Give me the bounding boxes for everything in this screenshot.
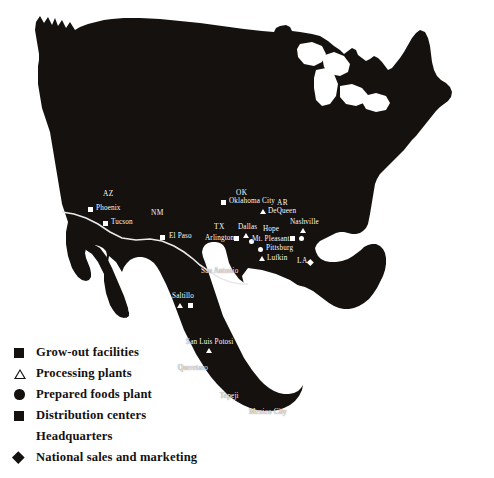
marker-tepeji-triangle[interactable] xyxy=(211,394,217,399)
city-label-mt-pleasant: Mt. Pleasant xyxy=(252,236,290,243)
legend-label-processing-plants: Processing plants xyxy=(36,366,132,381)
legend-item-distribution-centers: Distribution centers xyxy=(14,405,197,426)
city-label-arlington: Arlington xyxy=(205,235,234,242)
marker-mexico-city-square[interactable] xyxy=(240,411,245,416)
legend-label-distribution-centers: Distribution centers xyxy=(36,408,146,423)
city-label-pittsburg: Pittsburg xyxy=(266,245,293,252)
marker-san-luis-potosi-triangle[interactable] xyxy=(206,348,212,353)
operations-map: AZ Phoenix Tucson NM El Paso OK Oklahoma… xyxy=(0,0,494,478)
marker-san-antonio-square[interactable] xyxy=(213,256,218,261)
filled-diamond-icon xyxy=(14,453,36,462)
marker-pittsburg-circle[interactable] xyxy=(258,247,263,252)
marker-saltillo-triangle[interactable] xyxy=(177,303,183,308)
marker-phoenix-square[interactable] xyxy=(88,207,93,212)
legend-label-headquarters: Headquarters xyxy=(36,429,113,444)
legend-item-processing-plants: Processing plants xyxy=(14,363,197,384)
city-label-tepeji: Tepeji xyxy=(220,393,239,400)
city-label-nashville: Nashville xyxy=(290,219,319,226)
legend-item-headquarters: Headquarters xyxy=(14,426,197,447)
open-triangle-icon xyxy=(14,369,36,379)
marker-lufkin-triangle[interactable] xyxy=(259,256,265,261)
marker-arlington-square[interactable] xyxy=(234,236,239,241)
city-label-el-paso: El Paso xyxy=(169,233,192,240)
map-legend: Grow-out facilities Processing plants Pr… xyxy=(14,342,197,468)
marker-oklahoma-city-square[interactable] xyxy=(221,200,226,205)
no-symbol-icon xyxy=(14,432,36,442)
filled-square-icon xyxy=(14,411,36,421)
marker-dallas-triangle[interactable] xyxy=(243,233,249,238)
legend-item-national-sales-and-marketing: National sales and marketing xyxy=(14,447,197,468)
legend-label-grow-out-facilities: Grow-out facilities xyxy=(36,345,139,360)
state-label-az: AZ xyxy=(103,190,114,197)
filled-circle-icon xyxy=(14,389,36,400)
city-label-dallas: Dallas xyxy=(238,224,257,231)
city-label-hope: Hope xyxy=(263,226,279,233)
legend-item-grow-out-facilities: Grow-out facilities xyxy=(14,342,197,363)
city-label-tucson: Tucson xyxy=(111,219,133,226)
legend-item-prepared-foods-plant: Prepared foods plant xyxy=(14,384,197,405)
city-label-oklahoma-city: Oklahoma City xyxy=(229,198,275,205)
city-label-lufkin: Lufkin xyxy=(267,255,287,262)
state-label-tx: TX xyxy=(214,223,225,230)
marker-nashville-triangle[interactable] xyxy=(300,228,306,233)
city-label-saltillo: Saltillo xyxy=(172,293,194,300)
state-label-ok: OK xyxy=(236,189,248,196)
city-label-san-antonio: San Antonio xyxy=(201,268,238,275)
state-label-nm: NM xyxy=(151,209,164,216)
marker-mt-pleasant-square[interactable] xyxy=(290,236,295,241)
city-label-mexico-city: Mexico City xyxy=(249,409,287,416)
state-label-la: LA xyxy=(297,257,308,264)
marker-de-queen-triangle[interactable] xyxy=(260,209,266,214)
marker-el-paso-square[interactable] xyxy=(160,235,165,240)
marker-tucson-square[interactable] xyxy=(103,221,108,226)
legend-label-prepared-foods-plant: Prepared foods plant xyxy=(36,387,152,402)
marker-saltillo-square[interactable] xyxy=(188,303,193,308)
state-label-ar: AR xyxy=(277,199,288,206)
marker-mt-pleasant-circle[interactable] xyxy=(299,236,304,241)
city-label-phoenix: Phoenix xyxy=(96,205,121,212)
city-label-de-queen: DeQueen xyxy=(268,208,296,215)
legend-label-national-sales-and-marketing: National sales and marketing xyxy=(36,450,197,465)
filled-square-icon xyxy=(14,348,36,358)
